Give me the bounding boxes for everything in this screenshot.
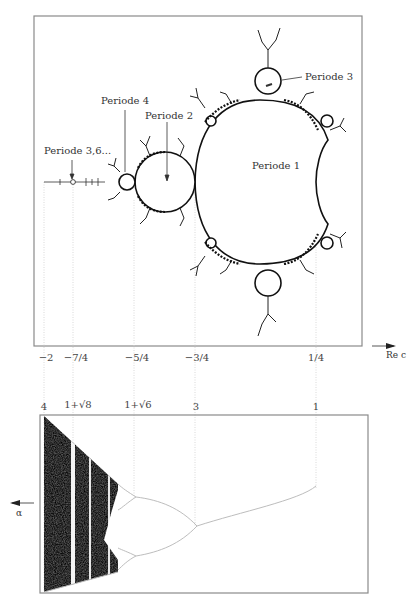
alpha-axis-arrow bbox=[10, 500, 34, 506]
tick-alpha-1: 1 bbox=[313, 401, 319, 412]
label-periode-2: Periode 2 bbox=[145, 110, 193, 121]
tick-alpha-1-plus-sqrt8: 1+√8 bbox=[64, 399, 91, 410]
alpha-axis-label: α bbox=[16, 508, 22, 518]
tick-re-c-1-4: 1/4 bbox=[308, 352, 324, 363]
tick-re-c-minus-7-4: −7/4 bbox=[64, 352, 88, 363]
tick-alpha-3: 3 bbox=[193, 401, 199, 412]
chaotic-region bbox=[44, 416, 118, 592]
figure-canvas bbox=[0, 0, 420, 608]
period-3-6-marker bbox=[71, 180, 76, 185]
tick-re-c-minus-2: −2 bbox=[39, 352, 54, 363]
label-periode-4: Periode 4 bbox=[101, 95, 149, 106]
label-periode-1: Periode 1 bbox=[252, 160, 300, 171]
label-periode-3: Periode 3 bbox=[305, 71, 353, 82]
label-periode-3-6: Periode 3,6... bbox=[44, 145, 111, 156]
tick-alpha-4: 4 bbox=[41, 401, 47, 412]
tick-re-c-minus-5-4: −5/4 bbox=[125, 352, 149, 363]
re-c-axis-arrow bbox=[372, 343, 396, 349]
tick-alpha-1-plus-sqrt6: 1+√6 bbox=[124, 399, 151, 410]
tick-re-c-minus-3-4: −3/4 bbox=[185, 352, 209, 363]
re-c-axis-label: Re c bbox=[386, 350, 406, 360]
